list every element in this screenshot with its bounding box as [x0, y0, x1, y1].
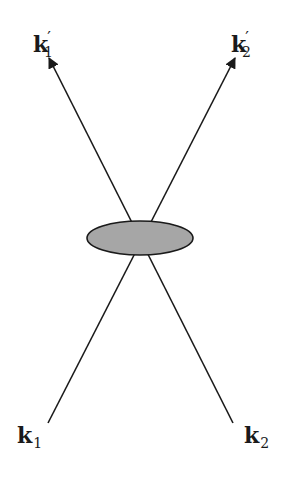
label-subscript: 2 [242, 44, 251, 60]
interaction-vertex [87, 221, 193, 255]
label-subscript: 2 [260, 435, 269, 451]
label-k1: k1 [17, 424, 42, 450]
label-base: k [17, 422, 32, 448]
label-subscript: 1 [33, 435, 42, 451]
scattering-diagram [0, 0, 290, 479]
label-k1-prime: k′1 [33, 30, 53, 59]
label-k2: k2 [244, 424, 269, 450]
label-k2-prime: k′2 [231, 30, 251, 59]
label-base: k [244, 422, 259, 448]
label-subscript: 1 [44, 44, 53, 60]
